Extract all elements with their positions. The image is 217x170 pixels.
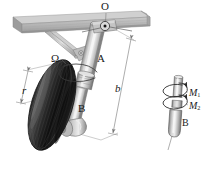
label-dimension-r: r [22,85,26,96]
label-strut-lower-B: B [78,103,85,114]
figure-canvas: O A B b r Ω M1 M2 B [0,0,217,170]
label-moment-m1: M1 [189,88,200,98]
label-moment-m2-subscript: 2 [197,104,200,111]
label-pivot-O: O [101,1,109,12]
detail-view-B [163,75,188,150]
label-spin-rate-omega: Ω [51,53,59,64]
landing-gear-drawing [0,0,217,170]
label-dimension-b: b [115,83,121,94]
label-moment-m1-subscript: 1 [197,91,200,98]
label-detail-body-B: B [182,118,189,128]
label-strut-upper-A: A [97,53,105,64]
label-moment-m2: M2 [189,101,200,111]
mounting-plate [13,11,150,33]
